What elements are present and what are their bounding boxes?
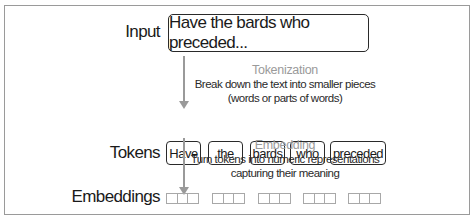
tokens-label: Tokens xyxy=(90,143,160,163)
embedding-vector xyxy=(258,193,291,204)
embedding-vector xyxy=(166,193,199,204)
embedding-vector xyxy=(212,193,245,204)
input-text-box: Have the bards who preceded... xyxy=(168,14,369,52)
embedding-desc-line1: Turn tokens into numeric representations xyxy=(185,152,385,166)
embedding-vector xyxy=(303,193,336,204)
tokenization-title: Tokenization xyxy=(185,63,385,77)
embedding-desc-line2: capturing their meaning xyxy=(185,166,385,180)
embedding-vector xyxy=(348,193,381,204)
tokenization-desc-line1: Break down the text into smaller pieces xyxy=(185,77,385,91)
embedding-title: Embedding xyxy=(185,138,385,152)
tokenization-desc-line2: (words or parts of words) xyxy=(185,91,385,105)
embeddings-label: Embeddings xyxy=(60,187,160,207)
input-label: Input xyxy=(90,22,160,42)
